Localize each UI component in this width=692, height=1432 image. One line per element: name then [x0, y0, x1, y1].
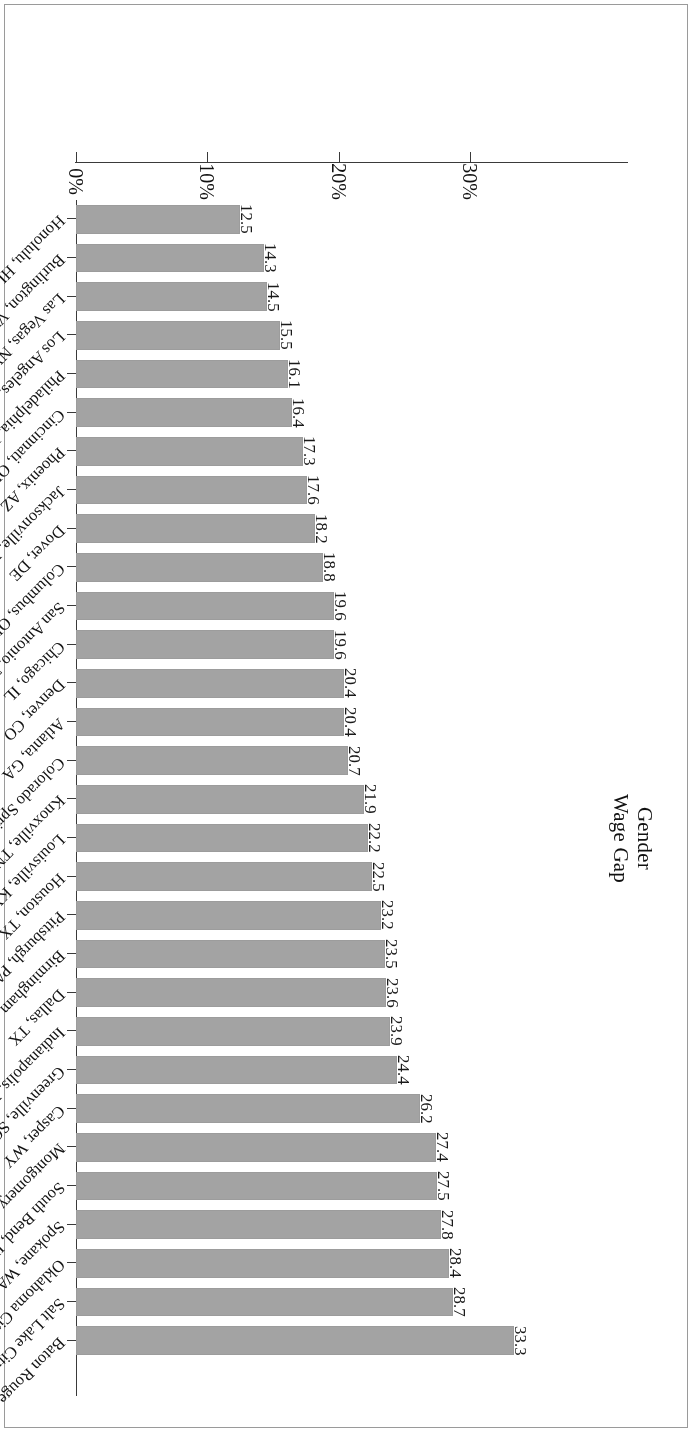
plot-area: 33.328.728.427.827.527.426.224.423.923.6…	[76, 200, 536, 1360]
bar-row: 28.7	[76, 1288, 536, 1317]
bar	[76, 514, 315, 543]
bar	[76, 746, 348, 775]
category-tick-mark	[67, 1185, 76, 1186]
bar	[76, 669, 344, 698]
bar-row: 12.5	[76, 205, 536, 234]
rotated-figure: Gender Wage Gap 0%10%20%30% 33.328.728.4…	[8, 10, 684, 1422]
bar-row: 21.9	[76, 785, 536, 814]
axis-title-line-1: Gender	[632, 728, 656, 948]
bar-value-label: 14.3	[260, 234, 280, 282]
bar-value-label: 26.2	[416, 1085, 436, 1133]
category-axis: Baton Rouge, LASalt Lake City, UTOklahom…	[8, 200, 76, 1360]
bar-row: 20.4	[76, 708, 536, 737]
bar	[76, 978, 386, 1007]
chart-page: Gender Wage Gap 0%10%20%30% 33.328.728.4…	[0, 0, 692, 1432]
bar	[76, 1094, 420, 1123]
category-tick-mark	[67, 760, 76, 761]
bar-row: 23.5	[76, 940, 536, 969]
category-tick-mark	[67, 914, 76, 915]
axis-title: Gender Wage Gap	[608, 728, 655, 948]
bar	[76, 785, 364, 814]
bar-value-label: 33.3	[510, 1317, 530, 1365]
bar-row: 27.4	[76, 1133, 536, 1162]
category-tick-mark	[67, 644, 76, 645]
bar	[76, 553, 323, 582]
bar-row: 20.7	[76, 746, 536, 775]
category-tick-mark	[67, 218, 76, 219]
bar-row: 24.4	[76, 1056, 536, 1085]
value-axis-labels: 0%10%20%30%	[536, 10, 598, 1422]
bar-row: 23.9	[76, 1017, 536, 1046]
bar-row: 28.4	[76, 1249, 536, 1278]
bar	[76, 940, 385, 969]
bar-row: 17.3	[76, 437, 536, 466]
axis-title-line-2: Wage Gap	[608, 728, 632, 948]
bar-value-label: 12.5	[236, 195, 256, 243]
category-tick-mark	[67, 1108, 76, 1109]
bar-row: 26.2	[76, 1094, 536, 1123]
category-tick-mark	[67, 798, 76, 799]
category-tick-mark	[67, 1340, 76, 1341]
category-tick-mark	[67, 412, 76, 413]
bar-row: 18.8	[76, 553, 536, 582]
bar	[76, 476, 307, 505]
category-tick-mark	[67, 257, 76, 258]
bar	[76, 1210, 441, 1239]
value-tick-mark	[76, 152, 77, 163]
bar-row: 27.5	[76, 1172, 536, 1201]
bar-row: 14.5	[76, 282, 536, 311]
bar	[76, 1326, 514, 1355]
category-tick-mark	[67, 1146, 76, 1147]
category-tick-mark	[67, 1069, 76, 1070]
bar	[76, 1172, 437, 1201]
bar-row: 15.5	[76, 321, 536, 350]
bar	[76, 282, 267, 311]
value-tick-mark	[470, 152, 471, 163]
category-tick-mark	[67, 721, 76, 722]
bar-row: 33.3	[76, 1326, 536, 1355]
bar-row: 22.5	[76, 862, 536, 891]
category-tick-mark	[67, 450, 76, 451]
bar	[76, 1288, 453, 1317]
category-tick-mark	[67, 1301, 76, 1302]
category-tick-mark	[67, 373, 76, 374]
bar-row: 19.6	[76, 630, 536, 659]
bar-row: 14.3	[76, 244, 536, 273]
category-tick-mark	[67, 566, 76, 567]
value-tick-mark	[207, 152, 208, 163]
bar-row: 16.1	[76, 360, 536, 389]
bar-row: 23.2	[76, 901, 536, 930]
category-tick-mark	[67, 1030, 76, 1031]
category-tick-mark	[67, 953, 76, 954]
value-axis-line	[75, 162, 628, 163]
bar-row: 27.8	[76, 1210, 536, 1239]
bar	[76, 244, 264, 273]
category-tick-mark	[67, 876, 76, 877]
bar	[76, 321, 280, 350]
bar-row: 18.2	[76, 514, 536, 543]
category-tick-mark	[67, 334, 76, 335]
bar	[76, 901, 381, 930]
bar	[76, 824, 368, 853]
category-tick-mark	[67, 528, 76, 529]
bar	[76, 862, 372, 891]
bar	[76, 360, 288, 389]
category-tick-mark	[67, 489, 76, 490]
bar-row: 17.6	[76, 476, 536, 505]
bar	[76, 1056, 397, 1085]
bar	[76, 1017, 390, 1046]
category-tick-mark	[67, 1262, 76, 1263]
bar	[76, 1249, 449, 1278]
category-tick-mark	[67, 682, 76, 683]
bar	[76, 630, 334, 659]
bar	[76, 592, 334, 621]
value-tick-mark	[339, 152, 340, 163]
bar-row: 23.6	[76, 978, 536, 1007]
category-tick-mark	[67, 1224, 76, 1225]
bar	[76, 708, 344, 737]
category-tick-mark	[67, 296, 76, 297]
bar	[76, 205, 240, 234]
bar-row: 19.6	[76, 592, 536, 621]
bar	[76, 1133, 436, 1162]
category-tick-mark	[67, 837, 76, 838]
